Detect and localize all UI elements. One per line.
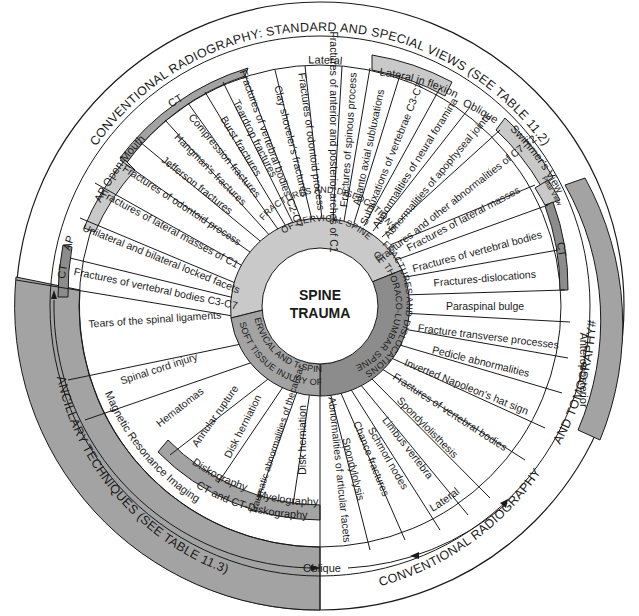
view-ct-left: CT — [55, 263, 69, 280]
soft-tissue-item: Disk herniation — [296, 405, 308, 475]
thoracolumbar-item: Paraspinal bulge — [446, 300, 524, 312]
center-title-line1: SPINE — [299, 287, 341, 303]
spine-trauma-wheel-diagram: SPINE TRAUMA FRACTURES AND DISLOCATIONS … — [0, 0, 639, 616]
center-title-line2: TRAUMA — [290, 305, 351, 321]
view-anteroposterior: Anteroposterior — [578, 332, 590, 408]
cervical-item: Fractures of anterior and posterior arch… — [328, 31, 340, 252]
view-ct-right: CT — [555, 241, 569, 258]
